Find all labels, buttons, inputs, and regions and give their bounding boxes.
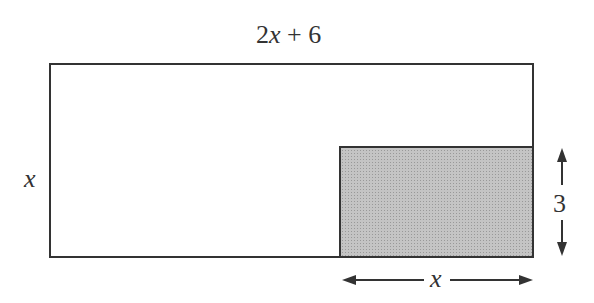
shaded-rectangle <box>340 147 533 257</box>
rectangle-diagram: 2x + 6 x 3 x <box>0 0 594 303</box>
shaded-height-label: 3 <box>553 189 566 218</box>
outer-height-label: x <box>23 164 36 193</box>
outer-width-label: 2x + 6 <box>256 20 321 49</box>
shaded-width-label: x <box>429 264 442 293</box>
